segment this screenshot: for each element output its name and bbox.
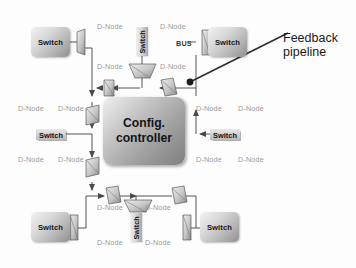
- dnode-label: D-Node: [58, 155, 84, 164]
- switch-top-left-label: Switch: [31, 38, 70, 47]
- feedback-pipeline-annotation: Feedback pipeline: [283, 31, 338, 59]
- dnode-label: D-Node: [97, 238, 123, 247]
- config-controller-node[interactable]: Config. controller: [103, 97, 185, 165]
- dnode-label: D-Node: [238, 104, 264, 113]
- dnode-label: D-Node: [196, 104, 222, 113]
- dnode-label: D-Node: [160, 22, 186, 31]
- switch-bottom-center-label: Switch: [132, 216, 141, 239]
- config-controller-label: Config. controller: [103, 116, 185, 146]
- dnode-label: D-Node: [196, 155, 222, 164]
- switch-left-middle-label: Switch: [36, 130, 66, 139]
- bus-label: BUS: [176, 39, 192, 48]
- switch-bottom-right-label: Switch: [200, 223, 239, 232]
- dnode-label: D-Node: [145, 203, 171, 212]
- switch-top-left[interactable]: Switch: [31, 27, 70, 57]
- switch-left-middle[interactable]: Switch: [36, 129, 66, 140]
- switch-top-center-label: Switch: [138, 30, 147, 53]
- switch-bottom-left-label: Switch: [31, 223, 70, 232]
- feedback-pipeline-line2: pipeline: [283, 45, 338, 59]
- switch-top-right-label: Switch: [208, 38, 247, 47]
- switch-right-middle-label: Switch: [210, 130, 240, 139]
- diagram-canvas: Config. controller Switch Switch Switch …: [0, 0, 356, 268]
- switch-top-right[interactable]: Switch: [208, 27, 247, 57]
- dnode-label: D-Node: [97, 22, 123, 31]
- dnode-label: D-Node: [18, 104, 44, 113]
- switch-bottom-center[interactable]: Switch: [130, 213, 142, 242]
- switch-top-center[interactable]: Switch: [136, 27, 148, 56]
- dnode-label: D-Node: [58, 104, 84, 113]
- dnode-label: D-Node: [97, 203, 123, 212]
- dnode-label: D-Node: [238, 155, 264, 164]
- switch-bottom-left[interactable]: Switch: [31, 212, 70, 242]
- feedback-pipeline-line1: Feedback: [283, 31, 338, 45]
- dnode-label: D-Node: [18, 155, 44, 164]
- dnode-label: D-Node: [160, 62, 186, 71]
- dnode-label: D-Node: [97, 62, 123, 71]
- dnode-label: D-Node: [145, 238, 171, 247]
- switch-right-middle[interactable]: Switch: [210, 129, 240, 140]
- switch-bottom-right[interactable]: Switch: [200, 212, 239, 242]
- feedback-junction-dot: [187, 79, 194, 86]
